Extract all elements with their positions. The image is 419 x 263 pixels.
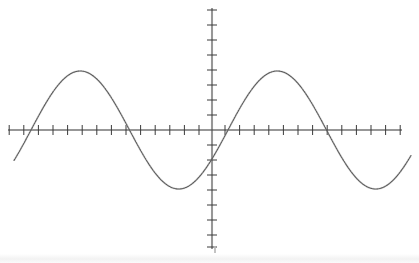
sine-graph-plot [0, 0, 419, 263]
figure-canvas [0, 0, 419, 263]
